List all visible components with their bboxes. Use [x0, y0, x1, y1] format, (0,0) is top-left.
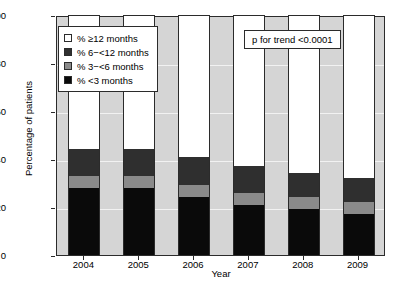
x-tick-mark	[138, 256, 139, 260]
legend-item: % ≥12 months	[64, 31, 149, 45]
bar-segment-ge12-2006	[178, 15, 210, 157]
bar-segment-m3to6-2009	[343, 202, 375, 214]
y-axis-title: Percentage of patients	[23, 54, 34, 204]
x-tick-mark	[303, 256, 304, 260]
x-tick-mark	[248, 256, 249, 260]
y-tick-label: 40	[0, 154, 6, 165]
bar-segment-m3to6-2007	[233, 193, 265, 205]
y-tick-mark	[51, 256, 55, 257]
gridline	[57, 161, 384, 162]
legend-item-label: % 6−<12 months	[77, 47, 149, 58]
y-tick-mark	[51, 64, 55, 65]
bar-segment-lt3-2004	[68, 188, 100, 255]
legend-item-label: % 3−<6 months	[77, 61, 144, 72]
legend-item-label: % <3 months	[77, 75, 133, 86]
bar-segment-m6to12-2004	[68, 149, 100, 175]
bar-segment-ge12-2009	[343, 15, 375, 178]
bar-segment-m3to6-2008	[288, 197, 320, 209]
bar-segment-m3to6-2004	[68, 176, 100, 188]
y-tick-mark	[51, 16, 55, 17]
y-tick-label: 60	[0, 106, 6, 117]
black-swatch	[64, 76, 72, 84]
bar-segment-m3to6-2006	[178, 185, 210, 197]
x-tick-label: 2008	[273, 259, 333, 270]
bar-segment-m6to12-2005	[123, 149, 155, 175]
bar-segment-lt3-2009	[343, 214, 375, 255]
bar-2006	[178, 15, 210, 255]
legend-item-label: % ≥12 months	[77, 33, 138, 44]
bar-segment-lt3-2005	[123, 188, 155, 255]
bar-segment-m6to12-2007	[233, 166, 265, 192]
bar-2008	[288, 15, 320, 255]
bar-segment-m6to12-2009	[343, 178, 375, 202]
y-tick-mark	[51, 208, 55, 209]
x-tick-label: 2004	[53, 259, 113, 270]
x-tick-label: 2006	[163, 259, 223, 270]
x-tick-label: 2005	[108, 259, 168, 270]
x-tick-mark	[358, 256, 359, 260]
bar-segment-lt3-2006	[178, 197, 210, 255]
bar-2007	[233, 15, 265, 255]
p-for-trend-annotation: p for trend <0.0001	[244, 30, 341, 49]
legend-item: % 6−<12 months	[64, 45, 149, 59]
x-tick-mark	[193, 256, 194, 260]
bar-segment-m6to12-2008	[288, 173, 320, 197]
gridline	[57, 209, 384, 210]
chart-legend: % ≥12 months% 6−<12 months% 3−<6 months%…	[58, 26, 158, 92]
bar-segment-m3to6-2005	[123, 176, 155, 188]
chart-figure: Percentage of patients Year 020406080100…	[0, 0, 402, 287]
y-tick-mark	[51, 160, 55, 161]
white-swatch	[64, 34, 72, 42]
x-tick-label: 2007	[218, 259, 278, 270]
legend-item: % <3 months	[64, 73, 149, 87]
y-tick-label: 0	[0, 250, 6, 261]
dark-gray-swatch	[64, 48, 72, 56]
bar-segment-lt3-2008	[288, 209, 320, 255]
gridline	[57, 113, 384, 114]
x-tick-label: 2009	[328, 259, 388, 270]
medium-gray-swatch	[64, 62, 72, 70]
bar-segment-lt3-2007	[233, 205, 265, 255]
legend-item: % 3−<6 months	[64, 59, 149, 73]
x-tick-mark	[83, 256, 84, 260]
y-tick-label: 80	[0, 58, 6, 69]
bar-segment-m6to12-2006	[178, 157, 210, 186]
y-tick-label: 100	[0, 10, 6, 21]
y-tick-mark	[51, 112, 55, 113]
y-tick-label: 20	[0, 202, 6, 213]
bar-2009	[343, 15, 375, 255]
